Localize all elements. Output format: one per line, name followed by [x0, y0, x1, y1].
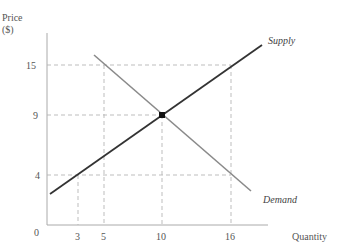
x-tick-16: 16: [225, 231, 235, 242]
y-tick-9: 9: [33, 110, 38, 121]
x-tick-5: 5: [101, 231, 106, 242]
x-tick-3: 3: [75, 231, 80, 242]
x-axis-title: Quantity: [292, 231, 327, 242]
supply-demand-chart: Price ($) 15 9 4 0 3 5 10 16 Quantity Su…: [0, 0, 343, 251]
supply-label: Supply: [268, 35, 296, 46]
y-axis-title-line1: Price: [2, 12, 23, 23]
y-axis-title-line2: ($): [2, 24, 14, 36]
y-tick-4: 4: [35, 170, 40, 181]
demand-label: Demand: [262, 194, 298, 205]
y-tick-15: 15: [26, 60, 36, 71]
supply-curve: [50, 45, 262, 194]
x-tick-10: 10: [156, 231, 166, 242]
demand-curve: [94, 55, 251, 191]
origin-label: 0: [34, 227, 39, 238]
equilibrium-point: [159, 112, 165, 118]
